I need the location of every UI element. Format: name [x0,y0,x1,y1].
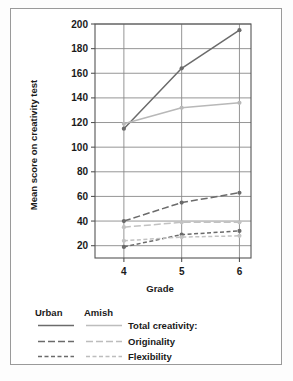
data-point-marker [180,220,184,224]
x-axis-title: Grade [146,283,173,294]
data-point-marker [180,235,184,239]
data-point-marker [180,106,184,110]
y-tick-label: 120 [71,117,88,128]
y-tick-label: 40 [77,216,89,227]
legend-rows: Total creativity:OriginalityFlexibility [38,320,198,362]
y-tick-label: 80 [77,166,89,177]
y-tick-label: 160 [71,68,88,79]
legend-item-label: Total creativity: [128,320,198,331]
x-tick-label: 4 [121,266,127,277]
y-tick-label: 60 [77,191,89,202]
y-tick-label: 20 [77,240,89,251]
data-point-marker [122,127,126,131]
y-tick-labels: 20406080100120140160180200 [71,19,88,252]
data-point-marker [180,66,184,70]
data-point-marker [237,101,241,105]
data-point-marker [122,225,126,229]
y-tick-label: 180 [71,43,88,54]
figure-page: 20406080100120140160180200 456 Mean scor… [0,0,293,381]
data-point-marker [180,200,184,204]
y-tick-label: 100 [71,142,88,153]
legend-item-label: Flexibility [128,351,173,362]
chart-svg: 20406080100120140160180200 456 Mean scor… [0,0,293,381]
y-tick-label: 140 [71,92,88,103]
data-point-marker [237,220,241,224]
data-point-marker [122,122,126,126]
chart-legend: Urban Amish Total creativity:Originality… [35,307,198,362]
axis-ticks-group [91,24,239,262]
y-axis-title: Mean score on creativity test [28,79,39,210]
legend-column-amish: Amish [84,307,113,318]
y-tick-label: 200 [71,19,88,30]
x-tick-labels: 456 [121,266,243,277]
legend-item-label: Originality [128,336,176,347]
data-point-marker [122,219,126,223]
data-point-marker [237,229,241,233]
x-tick-label: 6 [237,266,243,277]
data-point-marker [237,234,241,238]
data-point-marker [122,245,126,249]
legend-column-urban: Urban [35,307,63,318]
x-tick-label: 5 [179,266,185,277]
data-point-marker [237,28,241,32]
creativity-line-chart: 20406080100120140160180200 456 Mean scor… [0,0,293,381]
data-point-marker [237,191,241,195]
data-point-marker [122,239,126,243]
